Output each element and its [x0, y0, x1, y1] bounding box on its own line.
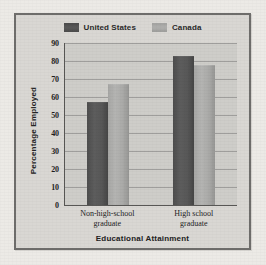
- x-axis-category-labels: Non-high-schoolgraduateHigh schoolgradua…: [64, 209, 237, 229]
- legend-swatch-canada-icon: [152, 23, 167, 32]
- x-axis-category-label-line: graduate: [64, 219, 151, 229]
- legend-label-united-states: United States: [84, 23, 136, 32]
- chart-figure-frame: United States Canada Percentage Employed…: [14, 13, 251, 250]
- x-axis-title: Educational Attainment: [40, 234, 245, 243]
- bar-canada-2: [194, 65, 215, 205]
- x-axis-category-label-line: High school: [151, 209, 238, 219]
- plot-area: [64, 43, 237, 206]
- y-axis-tick-90: 90: [51, 39, 59, 48]
- bar-united-states-1: [87, 102, 108, 205]
- y-axis-tick-labels: 9080706050403020100: [40, 43, 62, 205]
- y-axis-tick-40: 40: [51, 129, 59, 138]
- y-axis-tick-70: 70: [51, 75, 59, 84]
- bar-group-2: [151, 43, 237, 205]
- y-axis-title: Percentage Employed: [27, 55, 40, 205]
- plot-wrapper: 9080706050403020100 Non-high-schoolgradu…: [40, 41, 245, 242]
- x-axis-category-label-2: High schoolgraduate: [151, 209, 238, 229]
- bar-united-states-2: [173, 56, 194, 205]
- bar-canada-1: [108, 84, 129, 205]
- y-axis-tick-60: 60: [51, 93, 59, 102]
- bar-groups: [65, 43, 237, 205]
- y-axis-tick-10: 10: [51, 183, 59, 192]
- scanned-page-background: United States Canada Percentage Employed…: [0, 0, 266, 265]
- x-axis-category-label-line: graduate: [151, 219, 238, 229]
- x-axis-category-label-1: Non-high-schoolgraduate: [64, 209, 151, 229]
- legend-label-canada: Canada: [172, 23, 202, 32]
- y-axis-tick-50: 50: [51, 111, 59, 120]
- y-axis-tick-20: 20: [51, 165, 59, 174]
- y-axis-tick-80: 80: [51, 57, 59, 66]
- bar-group-1: [65, 43, 151, 205]
- legend-item-canada: Canada: [152, 23, 202, 32]
- x-axis-category-label-line: Non-high-school: [64, 209, 151, 219]
- chart-legend: United States Canada: [16, 23, 249, 32]
- y-axis-tick-0: 0: [55, 201, 59, 210]
- y-axis-title-text: Percentage Employed: [29, 86, 38, 173]
- legend-item-united-states: United States: [64, 23, 136, 32]
- legend-swatch-united-states-icon: [64, 23, 79, 32]
- y-axis-tick-30: 30: [51, 147, 59, 156]
